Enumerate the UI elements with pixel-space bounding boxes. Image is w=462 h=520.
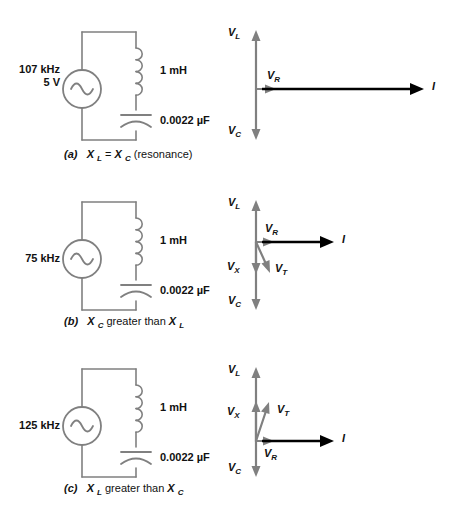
capacitor-value-a: 0.0022 µF [160,114,210,127]
figure-root: 107 kHz 5 V 1 mH 0.0022 µF VL VC VR I (a… [0,0,462,520]
panel-b: 75 kHz 1 mH 0.0022 µF VL VC VX VT VR I (… [0,180,462,347]
ac-source-icon [63,407,101,445]
phasor-current-arrowhead [320,435,334,447]
caption-a-term2: X C [114,148,130,160]
caption-b: (b) X C greater than X L [0,315,462,330]
inductor-value-a: 1 mH [160,64,187,77]
inductor-value-b: 1 mH [160,234,187,247]
caption-b-term1: X C [81,315,103,327]
phasor-vl-arrowhead [252,30,261,41]
caption-a-tail: (resonance) [134,148,193,160]
source-voltage-a: 5 V [12,76,60,89]
caption-c: (c) X L greater than X C [0,482,462,497]
phasor-label-vr-b: VR [265,222,278,237]
phasor-vx-arrowhead [252,401,261,412]
panel-c: 125 kHz 1 mH 0.0022 µF VL VC VX VT VR I … [0,347,462,520]
inductor-icon [136,218,142,265]
phasor-vc-arrowhead [252,299,261,310]
phasor-vl-arrowhead [252,367,261,378]
phasor-label-vt-c: VT [277,403,289,418]
phasor-diagram-a [252,30,425,140]
phasor-label-vr-c: VR [264,447,277,462]
caption-c-term1: X L [81,482,102,494]
phasor-label-vx-b: VX [227,260,240,275]
caption-a: (a) X L = X C (resonance) [0,148,462,163]
phasor-label-vx-c: VX [227,405,240,420]
phasor-label-vc-a: VC [228,124,241,139]
inductor-value-c: 1 mH [160,401,187,414]
caption-c-relation: greater than [105,482,167,494]
phasor-label-current-a: I [432,80,435,92]
caption-c-term2: X C [167,482,183,494]
phasor-label-vc-c: VC [228,461,241,476]
capacitor-icon [121,115,151,127]
caption-b-term2: X L [169,315,184,327]
phasor-vt-shaft [256,411,266,441]
capacitor-icon [121,285,151,297]
source-frequency-c: 125 kHz [8,419,60,432]
inductor-icon [136,385,142,432]
phasor-label-vl-c: VL [228,363,240,378]
phasor-label-vl-b: VL [228,196,240,211]
phasor-current-arrowhead [320,236,334,248]
phasor-vx-arrowhead [252,263,261,274]
phasor-vt-arrowhead [262,260,271,273]
capacitor-icon [121,452,151,464]
phasor-current-arrowhead [410,83,424,95]
phasor-vc-arrowhead [252,129,261,140]
source-frequency-a: 107 kHz [12,63,60,76]
ac-source-icon [63,240,101,278]
caption-a-id: (a) [64,148,77,160]
phasor-vt-arrowhead [261,402,270,414]
phasor-label-current-c: I [342,432,345,444]
phasor-vc-arrowhead [252,466,261,477]
panel-a: 107 kHz 5 V 1 mH 0.0022 µF VL VC VR I (a… [0,0,462,180]
phasor-label-vr-a: VR [267,69,280,84]
source-frequency-b: 75 kHz [12,252,60,265]
caption-a-term1: X L [81,148,102,160]
phasor-label-current-b: I [342,233,345,245]
caption-b-id: (b) [64,315,78,327]
phasor-diagram-b [252,200,335,310]
ac-source-icon [63,70,101,108]
phasor-vl-arrowhead [252,200,261,211]
caption-b-relation: greater than [106,315,168,327]
capacitor-value-c: 0.0022 µF [160,451,210,464]
inductor-icon [136,48,142,95]
phasor-label-vc-b: VC [228,294,241,309]
caption-c-id: (c) [64,482,77,494]
phasor-label-vl-a: VL [228,26,240,41]
capacitor-value-b: 0.0022 µF [160,284,210,297]
phasor-label-vt-b: VT [275,262,287,277]
